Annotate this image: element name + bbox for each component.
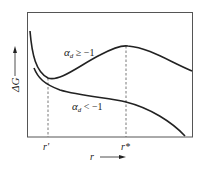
x-axis-label: r xyxy=(90,151,94,162)
label-alpha-ge: αd ≥ −1 xyxy=(64,46,94,60)
label-alpha-lt: αd < −1 xyxy=(72,100,103,114)
tick-r-star: r* xyxy=(121,141,130,152)
tick-r-prime: r' xyxy=(43,141,50,152)
curve-alpha-ge-minus-1 xyxy=(30,31,192,79)
y-axis-label-group: ΔG xyxy=(9,78,21,93)
x-axis-arrow-icon xyxy=(119,155,126,159)
gibbs-energy-diagram: αd ≥ −1 αd < −1 r' r* r ΔG xyxy=(0,0,202,174)
y-axis-label: ΔG xyxy=(9,78,21,93)
plot-frame xyxy=(28,13,193,138)
y-axis-arrow-icon xyxy=(13,46,17,53)
